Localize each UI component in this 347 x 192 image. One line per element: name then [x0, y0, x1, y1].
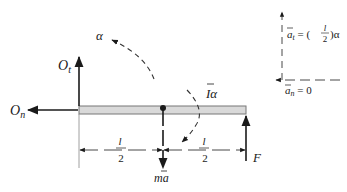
at-frac-den: 2 [323, 34, 328, 44]
ma-label: ma [154, 171, 169, 185]
i-alpha-label: Iα [205, 86, 218, 101]
f-label: F [252, 150, 262, 165]
alpha-label: α [96, 28, 104, 43]
at-label: at = ( [287, 28, 310, 42]
free-body-diagram: Ot On α Iα ma l 2 l 2 F at = ( l 2 )α an… [0, 0, 347, 192]
dim-right-num: l [202, 135, 205, 147]
ot-label: Ot [58, 58, 71, 75]
i-alpha-moment-arrow [182, 90, 199, 142]
dim-left-num: l [118, 135, 121, 147]
dim-left-den: 2 [118, 152, 124, 164]
at-frac-num: l [324, 23, 327, 33]
at-suffix: )α [330, 28, 340, 41]
alpha-rotation-arrow [112, 40, 154, 79]
on-label: On [10, 103, 25, 120]
an-label: an = 0 [285, 84, 312, 98]
dim-right-den: 2 [202, 152, 208, 164]
